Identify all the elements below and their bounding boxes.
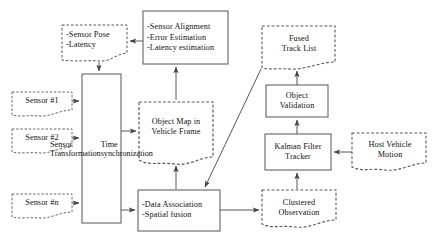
node-shape-data-association [138, 190, 220, 231]
sensor-transformation-line-1: Sensor Transformation [50, 140, 101, 158]
node-shape-fused-track-list [262, 26, 335, 69]
node-shape-sensor-1 [12, 92, 72, 116]
diagram-graphics-layer [0, 0, 438, 251]
node-shape-sensor-pose [62, 25, 127, 61]
node-shape-sensor-alignment [143, 11, 228, 64]
node-shape-object-validation [266, 85, 328, 117]
node-shape-clustered-observation [262, 190, 336, 227]
sensor-transformation-line-2: Time synchronization [101, 140, 153, 158]
node-shape-kalman-filter-tracker [265, 134, 331, 170]
diagram-canvas: -Sensor Pose -Latency -Sensor Alignment … [0, 0, 438, 251]
node-shape-sensor-n [12, 194, 72, 218]
node-shape-host-vehicle-motion [352, 133, 426, 170]
edge-fused-to-dataassociation [205, 69, 261, 187]
node-label-sensor-transformation: Sensor Transformation Time synchronizati… [82, 74, 121, 223]
